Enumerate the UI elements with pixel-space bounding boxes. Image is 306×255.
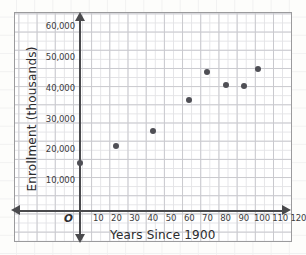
data-point	[150, 128, 156, 134]
x-tick-label: 60	[184, 213, 195, 223]
x-axis-title: Years Since 1900	[110, 228, 216, 242]
x-tick-label: 100	[254, 213, 270, 223]
y-tick-label: 60,000	[46, 21, 75, 31]
x-tick-label: 30	[129, 213, 140, 223]
x-tick-label: 110	[272, 213, 288, 223]
x-tick-label: 10	[93, 213, 104, 223]
x-tick-label: 50	[166, 213, 177, 223]
x-tick-label: 70	[202, 213, 213, 223]
y-axis-line	[79, 17, 81, 239]
origin-label: O	[64, 212, 73, 224]
x-tick-label: 90	[238, 213, 249, 223]
y-tick-label: 10,000	[46, 175, 75, 185]
x-axis-left-arrow-icon	[11, 205, 20, 215]
scatter-plot-figure: 10,00020,00030,00040,00050,00060,000 102…	[0, 0, 306, 255]
x-tick-label: 20	[111, 213, 122, 223]
y-tick-label: 30,000	[46, 114, 75, 124]
data-point	[223, 82, 229, 88]
x-tick-label: 120	[290, 213, 306, 223]
y-tick-label: 50,000	[46, 52, 75, 62]
y-tick-label: 20,000	[46, 144, 75, 154]
y-axis-title: Enrollment (thousands)	[25, 39, 39, 199]
y-axis-up-arrow-icon	[75, 12, 85, 21]
y-axis-down-arrow-icon	[75, 234, 85, 243]
y-tick-label: 40,000	[46, 83, 75, 93]
x-tick-label: 80	[220, 213, 231, 223]
x-tick-label: 40	[147, 213, 158, 223]
